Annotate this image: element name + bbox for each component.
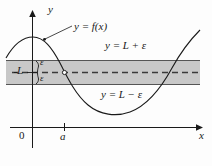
upper-bound-label: y = L + ε <box>105 40 146 51</box>
x-tick-label-a: a <box>60 131 66 142</box>
function-label-leader <box>45 26 72 39</box>
limit-value-label: L <box>17 65 23 76</box>
y-axis-label: y <box>48 4 53 15</box>
x-axis-label: x <box>199 130 204 141</box>
limit-epsilon-diagram: y = f(x) y = L + ε y = L − ε L ε ε 0 a x… <box>0 0 212 166</box>
function-label: y = f(x) <box>74 21 107 32</box>
epsilon-label-below: ε <box>40 74 44 83</box>
crossing-point-marker <box>62 70 66 74</box>
y-axis-arrowhead <box>29 10 36 17</box>
lower-bound-label: y = L − ε <box>101 89 142 100</box>
function-label-leader-dot <box>43 38 46 41</box>
origin-label: 0 <box>19 130 25 141</box>
epsilon-label-above: ε <box>40 58 44 67</box>
